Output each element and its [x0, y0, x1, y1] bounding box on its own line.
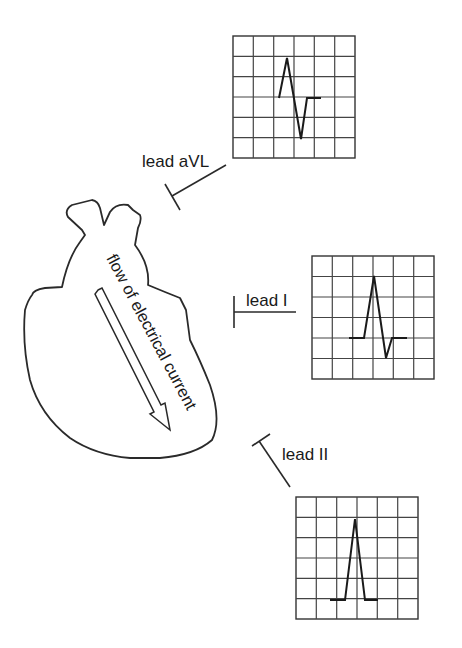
lead-i-label: lead I	[246, 291, 288, 310]
ecg-grid-i	[312, 256, 434, 379]
lead-avl-electrode	[165, 165, 226, 210]
ecg-grid-ii	[296, 497, 418, 619]
lead-avl-label: lead aVL	[142, 152, 209, 171]
lead-ii-label: lead II	[282, 445, 328, 464]
ecg-grid-avl	[233, 36, 355, 158]
ecg-diagram: flow of electrical current lead aVL lead…	[0, 0, 462, 648]
